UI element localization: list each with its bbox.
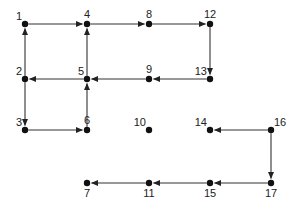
node-label-15: 15 bbox=[204, 187, 216, 199]
node-label-8: 8 bbox=[146, 8, 152, 20]
labels-layer: 1481225913361014167111517 bbox=[16, 8, 286, 199]
node-6 bbox=[84, 127, 90, 133]
node-1 bbox=[22, 21, 28, 27]
node-label-11: 11 bbox=[143, 187, 154, 199]
node-17 bbox=[268, 180, 274, 186]
node-14 bbox=[207, 127, 213, 133]
node-label-17: 17 bbox=[265, 187, 277, 199]
node-5 bbox=[84, 76, 90, 82]
node-label-13: 13 bbox=[195, 65, 207, 77]
node-label-5: 5 bbox=[78, 65, 84, 77]
node-label-10: 10 bbox=[134, 116, 146, 128]
node-label-1: 1 bbox=[16, 10, 22, 22]
directed-graph-diagram: 1481225913361014167111517 bbox=[0, 0, 298, 207]
node-label-7: 7 bbox=[84, 187, 90, 199]
edges-layer bbox=[25, 24, 271, 183]
nodes-layer bbox=[22, 21, 274, 186]
node-2 bbox=[22, 76, 28, 82]
node-label-9: 9 bbox=[146, 63, 152, 75]
node-label-12: 12 bbox=[204, 8, 216, 20]
node-10 bbox=[146, 127, 152, 133]
node-3 bbox=[22, 127, 28, 133]
node-label-3: 3 bbox=[16, 116, 22, 128]
node-8 bbox=[146, 21, 152, 27]
node-7 bbox=[84, 180, 90, 186]
node-13 bbox=[207, 76, 213, 82]
node-11 bbox=[146, 180, 152, 186]
node-4 bbox=[84, 21, 90, 27]
node-label-14: 14 bbox=[195, 116, 207, 128]
node-label-6: 6 bbox=[84, 114, 90, 126]
node-label-16: 16 bbox=[274, 116, 286, 128]
node-9 bbox=[146, 76, 152, 82]
node-label-2: 2 bbox=[16, 65, 22, 77]
node-12 bbox=[207, 21, 213, 27]
node-label-4: 4 bbox=[84, 8, 90, 20]
node-15 bbox=[207, 180, 213, 186]
